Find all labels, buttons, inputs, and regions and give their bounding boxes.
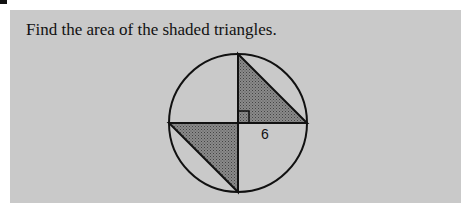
radius-label: 6: [261, 126, 269, 142]
geometry-figure: 6: [0, 0, 475, 214]
